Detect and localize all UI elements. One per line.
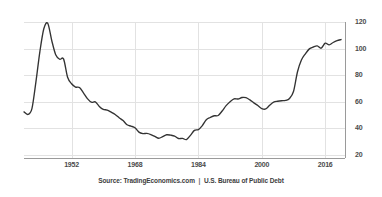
- y-tick-label-40: 40: [355, 124, 362, 132]
- x-tick-label-1968: 1968: [121, 161, 149, 169]
- y-tick-label-100: 100: [355, 45, 366, 53]
- x-tick-label-1952: 1952: [58, 161, 86, 169]
- x-tick-label-2000: 2000: [248, 161, 276, 169]
- source-prefix: Source:: [98, 177, 122, 184]
- source-publisher: U.S. Bureau of Public Debt: [204, 177, 284, 184]
- gridlines: [24, 22, 345, 158]
- data-series-debt-to-gdp: [24, 23, 341, 140]
- source-attribution: Source: TradingEconomics.com | U.S. Bure…: [0, 177, 382, 184]
- y-tick-label-120: 120: [355, 18, 366, 26]
- y-tick-label-20: 20: [355, 151, 362, 159]
- source-provider: TradingEconomics.com: [124, 177, 195, 184]
- source-separator: |: [197, 177, 203, 184]
- x-tick-label-1984: 1984: [184, 161, 212, 169]
- y-tick-label-80: 80: [355, 71, 362, 79]
- y-tick-label-60: 60: [355, 98, 362, 106]
- x-tick-label-2016: 2016: [311, 161, 339, 169]
- chart-container: 20406080100120 19521968198420002016 Sour…: [0, 0, 382, 197]
